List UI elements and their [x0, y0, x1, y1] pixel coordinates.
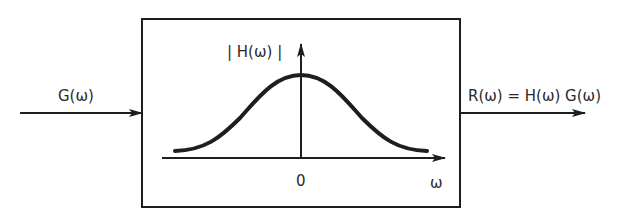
y-axis-label: | H(ω) | [227, 45, 282, 60]
block-diagram-canvas [0, 0, 641, 210]
x-axis-label: ω [430, 176, 443, 191]
input-signal-label: G(ω) [58, 89, 94, 104]
origin-tick-label: 0 [296, 174, 306, 189]
output-signal-label: R(ω) = H(ω) G(ω) [468, 89, 601, 104]
